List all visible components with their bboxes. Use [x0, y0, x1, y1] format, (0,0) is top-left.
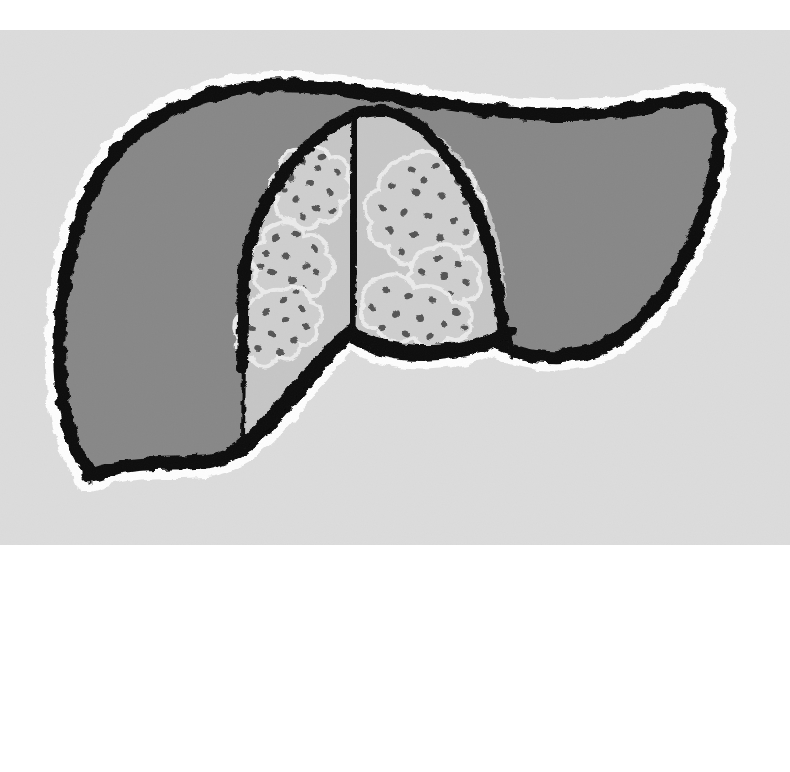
illustration-stage	[0, 0, 790, 772]
liver-diagram	[0, 0, 790, 772]
liver-diagram-svg	[0, 0, 790, 772]
paper-grain	[0, 30, 790, 545]
